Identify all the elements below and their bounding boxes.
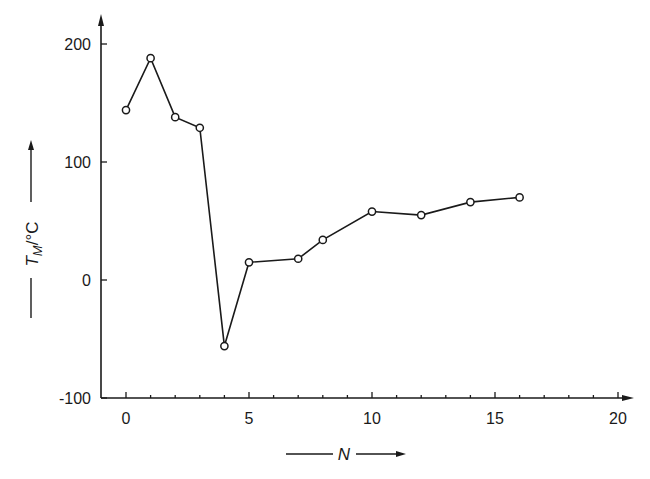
y-axis-arrow-icon (98, 14, 104, 26)
data-point-marker (319, 236, 326, 243)
data-point-marker (245, 259, 252, 266)
data-point-marker (418, 212, 425, 219)
data-point-marker (368, 208, 375, 215)
data-point-marker (147, 55, 154, 62)
data-point-marker (196, 124, 203, 131)
x-axis-label-text: N (338, 445, 351, 464)
axes (98, 14, 634, 401)
data-point-marker (516, 194, 523, 201)
series-line (126, 58, 520, 346)
data-point-marker (221, 342, 228, 349)
data-series (122, 55, 523, 350)
x-tick-label: 15 (486, 410, 504, 427)
y-tick-label: 0 (82, 272, 91, 289)
data-point-marker (295, 255, 302, 262)
y-ticks: -1000100200 (59, 36, 107, 407)
x-axis-arrow-icon (622, 395, 634, 401)
y-tick-label: -100 (59, 390, 91, 407)
data-point-marker (122, 106, 129, 113)
data-point-marker (467, 199, 474, 206)
x-tick-label: 0 (122, 410, 131, 427)
y-tick-label: 100 (64, 154, 91, 171)
data-point-marker (172, 114, 179, 121)
y-tick-label: 200 (64, 36, 91, 53)
x-axis-label: N (286, 445, 406, 464)
chart: 05101520 -1000100200 N TM/°C (0, 0, 650, 479)
x-tick-label: 20 (609, 410, 627, 427)
x-label-arrow-icon (396, 451, 406, 457)
y-axis-label-text: TM/°C (23, 221, 45, 266)
x-tick-label: 5 (245, 410, 254, 427)
y-axis-label: TM/°C (23, 140, 45, 318)
x-tick-label: 10 (363, 410, 381, 427)
y-label-arrow-icon (28, 140, 34, 150)
